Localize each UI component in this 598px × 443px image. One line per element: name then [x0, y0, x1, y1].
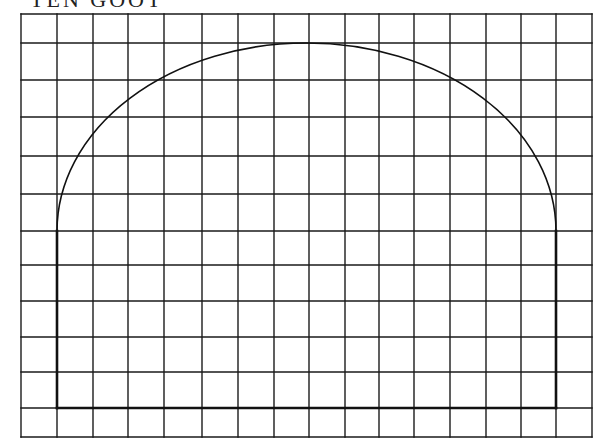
arch-curve [57, 43, 556, 408]
grid-arch-diagram [0, 0, 598, 443]
grid-lines [21, 14, 592, 437]
arch-outline [57, 43, 556, 408]
